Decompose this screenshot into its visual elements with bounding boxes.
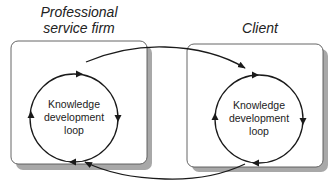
firm-title-line2: service firm (24, 20, 134, 36)
client-loop-label-line2: development (214, 112, 304, 125)
firm-loop-label-line3: loop (29, 124, 119, 137)
client-title: Client (220, 20, 300, 36)
client-title-line1: Client (220, 20, 300, 36)
firm-loop-label-line2: development (29, 111, 119, 124)
client-loop-label-line1: Knowledge (214, 99, 304, 112)
firm-title-line1: Professional (24, 4, 134, 20)
client-loop-label-line3: loop (214, 125, 304, 138)
client-loop-label: Knowledge development loop (214, 99, 304, 138)
firm-loop-label: Knowledge development loop (29, 98, 119, 137)
firm-loop-label-line1: Knowledge (29, 98, 119, 111)
firm-title: Professional service firm (24, 4, 134, 36)
